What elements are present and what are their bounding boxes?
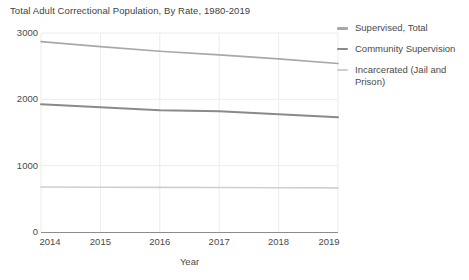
chart-container: Total Adult Correctional Population, By … <box>0 0 469 280</box>
chart-title: Total Adult Correctional Population, By … <box>10 5 250 16</box>
series-line <box>41 187 338 188</box>
legend-swatch-icon <box>337 27 348 30</box>
y-axis-tick-label: 1000 <box>2 161 38 171</box>
plot-area <box>41 33 338 232</box>
legend-item-label: Community Supervision <box>355 43 455 55</box>
y-axis-tick-label: 0 <box>2 227 38 237</box>
legend-swatch-icon <box>337 69 348 72</box>
legend-item[interactable]: Incarcerated (Jail and Prison) <box>337 64 469 88</box>
y-axis: 3000200010000 <box>0 0 38 280</box>
chart-legend: Supervised, TotalCommunity SupervisionIn… <box>337 22 469 97</box>
x-axis-tick-label: 2016 <box>149 236 170 247</box>
x-axis-tick-label: 2015 <box>90 236 111 247</box>
y-axis-tick-label: 2000 <box>2 94 38 104</box>
plot-svg <box>41 33 338 232</box>
legend-item-label: Incarcerated (Jail and Prison) <box>355 64 469 88</box>
series-line <box>41 42 338 64</box>
y-axis-tick-label: 3000 <box>2 28 38 38</box>
x-axis-line <box>41 232 338 233</box>
series-line <box>41 104 338 117</box>
legend-swatch-icon <box>337 48 348 51</box>
legend-item[interactable]: Community Supervision <box>337 43 469 55</box>
x-axis-title: Year <box>41 256 338 267</box>
legend-item-label: Supervised, Total <box>355 22 428 34</box>
x-axis-tick-label: 2018 <box>268 236 289 247</box>
legend-item[interactable]: Supervised, Total <box>337 22 469 34</box>
x-axis-tick-label: 2017 <box>209 236 230 247</box>
x-axis-tick-label: 2019 <box>318 236 339 247</box>
x-axis-tick-label: 2014 <box>39 236 60 247</box>
